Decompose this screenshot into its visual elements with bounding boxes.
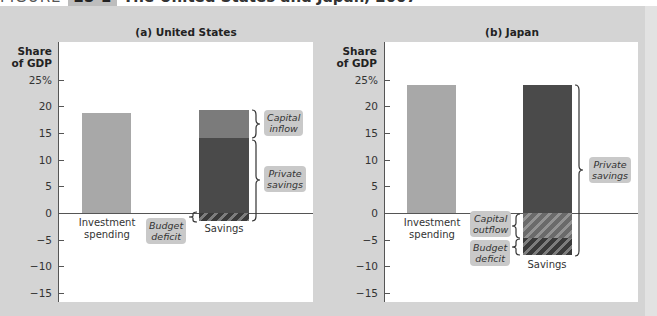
y-tick-label: −15	[18, 287, 52, 299]
bar-budget-deficit	[199, 213, 249, 221]
y-tick	[58, 213, 64, 214]
y-tick	[58, 106, 64, 107]
brace-private-savings	[574, 84, 584, 257]
y-axis-label-line1: Share	[335, 45, 377, 57]
y-tick-label: −15	[344, 287, 378, 299]
y-axis-line	[384, 42, 385, 302]
note-line2: inflow	[267, 123, 300, 134]
y-tick-label: −5	[344, 234, 378, 246]
y-tick	[58, 80, 64, 81]
y-axis-label-line2: of GDP	[335, 57, 377, 69]
bar-capital-outflow	[523, 213, 572, 238]
y-axis-line	[58, 42, 59, 302]
note-line1: Private	[267, 168, 303, 179]
panel-title: (b) Japan	[485, 26, 539, 38]
y-tick-label: 10	[18, 154, 52, 166]
y-tick	[58, 266, 64, 267]
y-tick-label: 10	[344, 154, 378, 166]
y-axis-label-line1: Share	[10, 45, 52, 57]
page-edge	[645, 6, 657, 316]
y-tick-label: 20	[18, 100, 52, 112]
category-line1: Investment	[404, 217, 461, 229]
bar-investment-spending	[82, 113, 131, 213]
category-investment-spending: Investment spending	[404, 217, 461, 241]
brace-capital-outflow	[511, 213, 521, 239]
note-line2: savings	[592, 170, 628, 181]
y-tick-label: 5	[18, 180, 52, 192]
brace-capital-inflow	[251, 109, 261, 139]
category-savings: Savings	[527, 259, 566, 271]
bar-investment-spending	[407, 85, 456, 213]
note-line1: Capital	[473, 213, 508, 224]
y-tick-label: 0	[18, 207, 52, 219]
bar-private-savings	[523, 85, 572, 213]
note-private-savings: Private savings	[589, 157, 631, 183]
zero-line	[58, 213, 313, 214]
note-budget-deficit: Budget deficit	[146, 218, 186, 244]
panel-title: (a) United States	[135, 26, 236, 38]
category-line2: spending	[404, 229, 461, 241]
brace-private-savings	[251, 139, 261, 222]
note-capital-outflow: Capital outflow	[470, 211, 511, 237]
y-tick	[58, 160, 64, 161]
note-line1: Budget	[473, 242, 507, 253]
y-tick	[384, 133, 390, 134]
y-tick	[384, 80, 390, 81]
bar-capital-inflow	[199, 110, 249, 138]
y-tick-label: 15	[344, 127, 378, 139]
y-axis-label-line2: of GDP	[10, 57, 52, 69]
y-axis-label: Share of GDP	[335, 45, 377, 69]
y-tick-label: −5	[18, 234, 52, 246]
y-tick	[58, 133, 64, 134]
y-tick-label: −10	[18, 260, 52, 272]
y-tick-label: 5	[344, 180, 378, 192]
y-tick	[384, 213, 390, 214]
note-line1: Private	[592, 159, 628, 170]
y-tick-label: 15	[18, 127, 52, 139]
note-line1: Budget	[149, 220, 183, 231]
y-tick	[384, 293, 390, 294]
y-tick-label: 20	[344, 100, 378, 112]
category-investment-spending: Investment spending	[79, 217, 136, 241]
note-line2: deficit	[473, 253, 507, 264]
note-line2: outflow	[473, 224, 508, 235]
y-tick-label: 0	[344, 207, 378, 219]
note-line2: deficit	[149, 231, 183, 242]
y-tick	[384, 186, 390, 187]
y-tick-label: −10	[344, 260, 378, 272]
category-line2: spending	[79, 229, 136, 241]
category-line1: Investment	[79, 217, 136, 229]
category-savings: Savings	[204, 223, 243, 235]
y-axis-label: Share of GDP	[10, 45, 52, 69]
y-tick	[384, 106, 390, 107]
note-private-savings: Private savings	[264, 166, 306, 192]
bar-private-savings	[199, 138, 249, 213]
y-tick	[384, 240, 390, 241]
brace-budget-deficit	[188, 211, 198, 223]
y-tick-label: 25%	[18, 74, 52, 86]
bar-budget-deficit	[523, 238, 572, 255]
y-tick	[58, 293, 64, 294]
y-tick	[58, 186, 64, 187]
y-tick-label: 25%	[344, 74, 378, 86]
y-tick	[384, 160, 390, 161]
note-capital-inflow: Capital inflow	[264, 110, 303, 136]
brace-budget-deficit	[511, 238, 521, 256]
note-line1: Capital	[267, 112, 300, 123]
y-tick	[58, 240, 64, 241]
note-budget-deficit: Budget deficit	[470, 240, 510, 266]
note-line2: savings	[267, 179, 303, 190]
y-tick	[384, 266, 390, 267]
